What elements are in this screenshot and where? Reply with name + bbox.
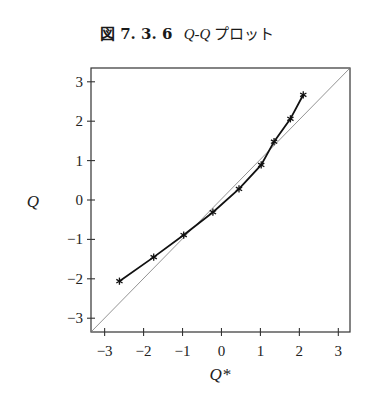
x-tick-label: 0 — [218, 343, 226, 359]
y-axis-label: Q — [27, 192, 39, 211]
qq-plot: −3−2−10123 −3−2−10123 Q* Q — [0, 0, 374, 418]
y-tick-label: −2 — [67, 271, 83, 287]
y-tick-label: −3 — [67, 310, 83, 326]
y-tick-label: 0 — [76, 192, 84, 208]
x-tick-label: 3 — [335, 343, 343, 359]
y-tick-label: 2 — [76, 113, 84, 129]
x-tick-label: 1 — [257, 343, 265, 359]
y-tick-label: 3 — [76, 74, 84, 90]
y-tick-label: 1 — [76, 153, 84, 169]
x-tick-label: −1 — [175, 343, 191, 359]
y-tick-label: −1 — [67, 231, 83, 247]
x-tick-label: 2 — [296, 343, 304, 359]
plot-series — [91, 68, 350, 332]
x-axis-ticks: −3−2−10123 — [97, 328, 342, 359]
x-tick-label: −2 — [136, 343, 152, 359]
qq-line — [119, 95, 303, 281]
reference-line — [91, 68, 350, 332]
x-axis-label: Q* — [210, 365, 231, 384]
x-tick-label: −3 — [97, 343, 113, 359]
